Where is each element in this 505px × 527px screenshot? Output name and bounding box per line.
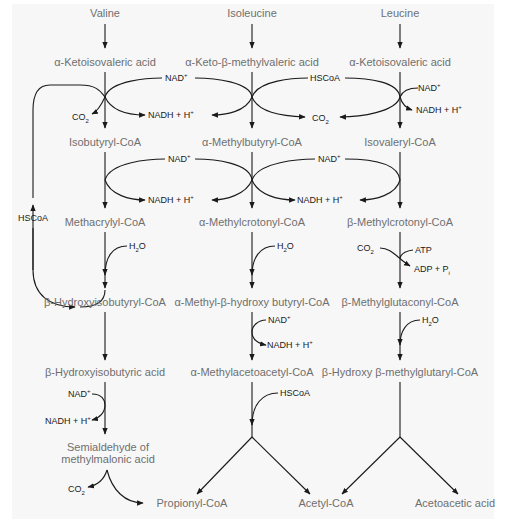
cofactor-nadh-3: NADH + H+ [297, 194, 343, 205]
label-hmg-coa: β-Hydroxy β-methylglutaryl-CoA [322, 366, 479, 378]
bcaa-catabolism-diagram: Valine Isoleucine Leucine α-Ketoisovaler… [0, 0, 505, 527]
label-isovaleryl-coa: Isovaleryl-CoA [364, 136, 436, 148]
label-semialdehyde-line1: Semialdehyde of [67, 441, 150, 453]
label-methacrylyl-coa: Methacrylyl-CoA [65, 216, 146, 228]
label-semialdehyde-line2: methylmalonic acid [61, 453, 155, 465]
label-beta-hydroxyisobutyryl-coa: β-Hydroxyisobutyryl-CoA [44, 296, 167, 308]
label-isobutyryl-coa: Isobutyryl-CoA [69, 136, 142, 148]
label-alpha-keto-beta-methylvaleric-acid: α-Keto-β-methylvaleric acid [185, 56, 319, 68]
label-alpha-methylbutyryl-coa: α-Methylbutyryl-CoA [202, 136, 303, 148]
side-loop-hscoa-label: HSCoA [18, 213, 48, 223]
label-beta-hydroxyisobutyric-acid: β-Hydroxyisobutyric acid [45, 366, 165, 378]
label-beta-methylglutaconyl-coa: β-Methylglutaconyl-CoA [342, 296, 460, 308]
label-alpha-ketoisovaleric-acid-valine: α-Ketoisovaleric acid [54, 56, 156, 68]
label-acetyl-coa: Acetyl-CoA [298, 497, 354, 509]
label-propionyl-coa: Propionyl-CoA [157, 497, 229, 509]
label-alpha-methyl-beta-hydroxybutyryl-coa: α-Methyl-β-hydroxy butyryl-CoA [174, 296, 330, 308]
cofactor-nadh-isoleucine: NADH + H+ [267, 339, 313, 350]
label-acetoacetic-acid: Acetoacetic acid [415, 497, 495, 509]
label-alpha-methylcrotonyl-coa: α-Methylcrotonyl-CoA [199, 216, 306, 228]
label-alpha-methylacetoacetyl-coa: α-Methylacetoacetyl-CoA [190, 366, 314, 378]
cofactor-nadh-2: NADH + H+ [148, 194, 194, 205]
cofactor-hscoa: HSCoA [310, 73, 340, 83]
cofactor-hscoa-isoleucine: HSCoA [280, 388, 310, 398]
cofactor-nadh: NADH + H+ [148, 109, 194, 120]
label-valine: Valine [90, 7, 120, 19]
cofactor-nadh-valine: NADH + H+ [45, 415, 91, 426]
label-beta-methylcrotonyl-coa: β-Methylcrotonyl-CoA [347, 216, 454, 228]
cofactor-atp: ATP [415, 245, 432, 255]
label-alpha-ketoisovaleric-acid-leucine: α-Ketoisovaleric acid [349, 56, 451, 68]
cofactor-nadh-leucine: NADH + H+ [416, 104, 462, 115]
label-leucine: Leucine [381, 7, 420, 19]
label-isoleucine: Isoleucine [227, 7, 277, 19]
